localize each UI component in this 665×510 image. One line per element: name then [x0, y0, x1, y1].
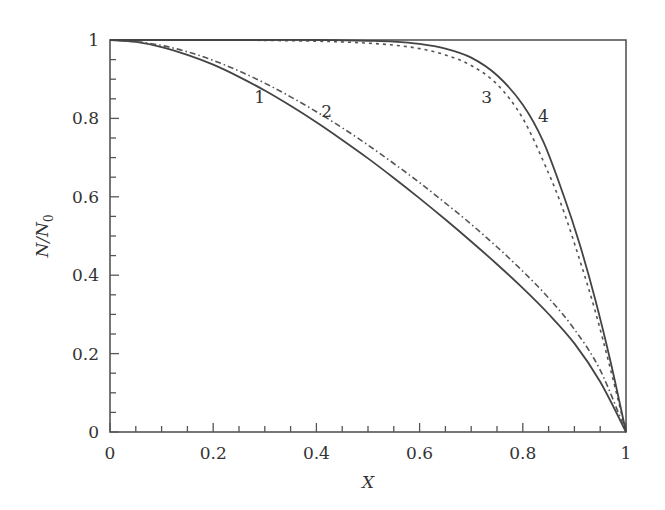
- curve-1: [110, 40, 626, 432]
- y-tick-labels: 00.20.40.60.81: [72, 30, 99, 442]
- curve-label-3: 3: [481, 87, 492, 107]
- x-tick-label: 0: [105, 443, 116, 463]
- axis-ticks: [110, 40, 626, 432]
- plot-border: [110, 40, 626, 432]
- curve-3: [110, 40, 626, 432]
- y-axis-title: N/N0: [32, 214, 56, 258]
- curve-2: [110, 40, 626, 432]
- curve-label-4: 4: [538, 106, 549, 126]
- x-axis-title: X: [360, 472, 375, 492]
- y-axis-title-sub: 0: [42, 214, 56, 222]
- curve-label-2: 2: [321, 101, 332, 121]
- curve-label-1: 1: [254, 87, 265, 107]
- y-tick-label: 1: [88, 30, 99, 50]
- y-tick-label: 0.6: [72, 187, 99, 207]
- x-tick-label: 0.2: [200, 443, 227, 463]
- y-axis-title-main: N/N: [32, 221, 52, 259]
- plot-frame: [110, 40, 626, 432]
- x-tick-label: 1: [621, 443, 632, 463]
- x-tick-label: 0.4: [303, 443, 330, 463]
- y-tick-label: 0.8: [72, 108, 99, 128]
- y-tick-label: 0.4: [72, 265, 99, 285]
- x-tick-labels: 00.20.40.60.81: [105, 443, 632, 463]
- x-tick-label: 0.6: [406, 443, 433, 463]
- chart: 00.20.40.60.81 00.20.40.60.81 1234 X N/N…: [0, 0, 665, 510]
- y-tick-label: 0.2: [72, 344, 99, 364]
- y-tick-label: 0: [88, 422, 99, 442]
- curves: [110, 40, 626, 432]
- x-tick-label: 0.8: [509, 443, 536, 463]
- curve-4: [110, 40, 626, 432]
